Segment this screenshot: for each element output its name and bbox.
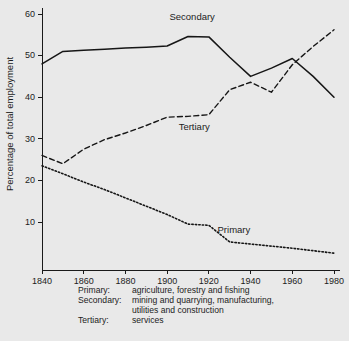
x-tick-label: 1960 <box>282 276 302 286</box>
y-tick-label: 30 <box>25 134 35 144</box>
legend-block: Primary: agriculture, forestry and fishi… <box>78 286 340 326</box>
legend-row-tertiary: Tertiary: services <box>78 316 340 326</box>
chart-annotations: SecondaryTertiaryPrimary <box>169 11 250 235</box>
series-label-secondary: Secondary <box>169 11 215 22</box>
legend-term-secondary: Secondary: <box>78 296 132 306</box>
series-line-primary <box>42 166 334 253</box>
y-tick-label: 60 <box>25 9 35 19</box>
y-tick-label: 50 <box>25 50 35 60</box>
y-tick-label: 10 <box>25 217 35 227</box>
x-tick-label: 1840 <box>32 276 52 286</box>
axis-spines <box>42 8 340 270</box>
series-label-tertiary: Tertiary <box>179 121 210 132</box>
y-axis-title-text: Percentage of total employment <box>4 57 15 191</box>
y-axis-title: Percentage of total employment <box>4 57 15 191</box>
chart-series <box>42 30 334 253</box>
legend-term-tertiary: Tertiary: <box>78 316 132 326</box>
x-tick-label: 1980 <box>324 276 344 286</box>
series-label-primary: Primary <box>218 224 251 235</box>
chart-axes: 1020304050601840186018801900192019401960… <box>25 8 344 286</box>
y-tick-label: 40 <box>25 92 35 102</box>
chart-container: 1020304050601840186018801900192019401960… <box>0 0 349 341</box>
legend-definition-tertiary: services <box>132 316 340 326</box>
y-tick-label: 20 <box>25 175 35 185</box>
